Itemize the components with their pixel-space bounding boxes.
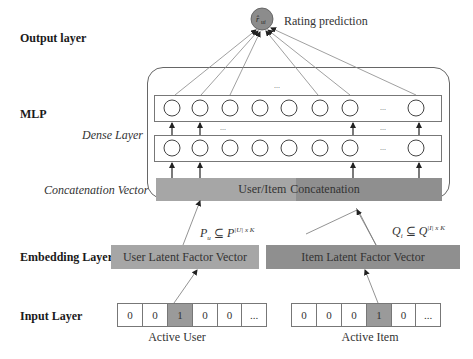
ellipsis-top: ... bbox=[274, 81, 280, 90]
svg-text:...: ... bbox=[220, 123, 226, 132]
svg-text:...: ... bbox=[380, 123, 386, 132]
network-graphics: ... r̂ ui ... ... ... ... bbox=[0, 0, 473, 359]
svg-text:...: ... bbox=[380, 143, 386, 152]
svg-text:ui: ui bbox=[261, 19, 266, 25]
output-connections bbox=[175, 28, 416, 95]
output-node: r̂ ui bbox=[251, 8, 273, 30]
svg-text:...: ... bbox=[380, 103, 386, 112]
input-connectors bbox=[174, 270, 378, 303]
embedding-connectors bbox=[183, 201, 376, 245]
